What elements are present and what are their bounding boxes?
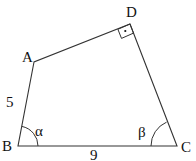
diagram-canvas: A B C D 5 9 α β: [0, 0, 196, 161]
side-label-ab: 5: [6, 94, 14, 110]
angle-label-alpha: α: [35, 123, 43, 139]
right-angle-dot: [124, 30, 126, 32]
vertex-label-c: C: [181, 139, 191, 155]
side-label-bc: 9: [90, 147, 98, 161]
angle-label-beta: β: [138, 124, 146, 140]
quadrilateral-diagram: A B C D 5 9 α β: [0, 0, 196, 161]
angle-arc-beta: [151, 122, 167, 146]
vertex-label-d: D: [126, 4, 137, 20]
vertex-label-a: A: [22, 49, 33, 65]
vertex-label-b: B: [2, 138, 12, 154]
